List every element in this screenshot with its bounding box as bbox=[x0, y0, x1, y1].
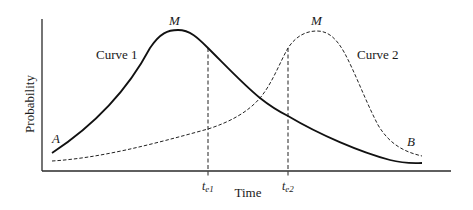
curve-1-label: Curve 1 bbox=[96, 47, 138, 62]
marker-label-te1: te1 bbox=[202, 179, 214, 194]
y-axis-label: Probability bbox=[22, 75, 37, 133]
peak-m-label-curve-2: M bbox=[310, 13, 323, 28]
point-a-label: A bbox=[51, 131, 60, 146]
probability-time-diagram: Probability Time Curve 1 Curve 2 A M M B… bbox=[0, 0, 473, 210]
marker-label-te2: te2 bbox=[282, 179, 294, 194]
curve-2-label: Curve 2 bbox=[357, 47, 399, 62]
x-axis-label: Time bbox=[235, 185, 262, 200]
peak-m-label-curve-1: M bbox=[168, 13, 181, 28]
point-b-label: B bbox=[407, 134, 415, 149]
